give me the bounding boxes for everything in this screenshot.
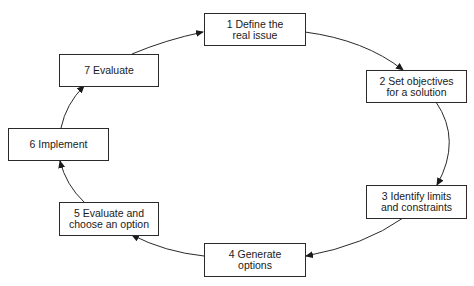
arrow-6-to-7: [61, 86, 84, 128]
step-3-label: 3 Identify limits and constraints: [381, 191, 452, 213]
step-1-define-issue: 1 Define the real issue: [204, 13, 306, 46]
step-3-identify-limits: 3 Identify limits and constraints: [366, 185, 467, 219]
step-5-evaluate-choose: 5 Evaluate and choose an option: [59, 202, 159, 236]
step-2-set-objectives: 2 Set objectives for a solution: [366, 70, 467, 103]
step-4-generate-options: 4 Generate options: [204, 243, 306, 277]
arrow-4-to-5: [132, 235, 204, 256]
arrow-1-to-2: [305, 32, 403, 70]
step-4-label: 4 Generate options: [229, 249, 282, 271]
arrow-7-to-1: [132, 32, 203, 54]
step-1-label: 1 Define the real issue: [227, 19, 284, 41]
step-6-implement: 6 Implement: [8, 128, 109, 161]
step-6-label: 6 Implement: [30, 139, 88, 150]
arrow-3-to-4: [306, 218, 403, 256]
arrow-5-to-6: [60, 161, 84, 202]
arrow-2-to-3: [436, 102, 449, 185]
step-2-label: 2 Set objectives for a solution: [379, 76, 453, 98]
step-5-label: 5 Evaluate and choose an option: [69, 208, 149, 230]
step-7-label: 7 Evaluate: [84, 65, 134, 76]
step-7-evaluate: 7 Evaluate: [59, 54, 159, 87]
